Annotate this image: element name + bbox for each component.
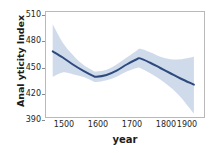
- y-tick-label: 480: [15, 37, 41, 45]
- x-axis-label: year: [45, 134, 205, 146]
- confidence-band: [53, 24, 194, 113]
- y-axis-tick-labels: 510 480 450 420 390: [14, 0, 41, 153]
- plot-area: [45, 11, 205, 118]
- x-tick-label: 1900: [170, 120, 204, 129]
- chart-figure: Anal yticity Index 510 480 450 420 390 1…: [0, 0, 214, 153]
- y-tick-label: 450: [15, 64, 41, 72]
- y-tick-mark: [42, 120, 45, 121]
- y-tick-label: 510: [15, 11, 41, 19]
- x-tick-label: 1700: [115, 120, 149, 129]
- y-tick-label: 420: [15, 90, 41, 98]
- x-tick-label: 1600: [81, 120, 115, 129]
- y-tick-label: 390: [15, 116, 41, 124]
- plot-svg: [46, 12, 204, 117]
- x-tick-label: 1500: [47, 120, 81, 129]
